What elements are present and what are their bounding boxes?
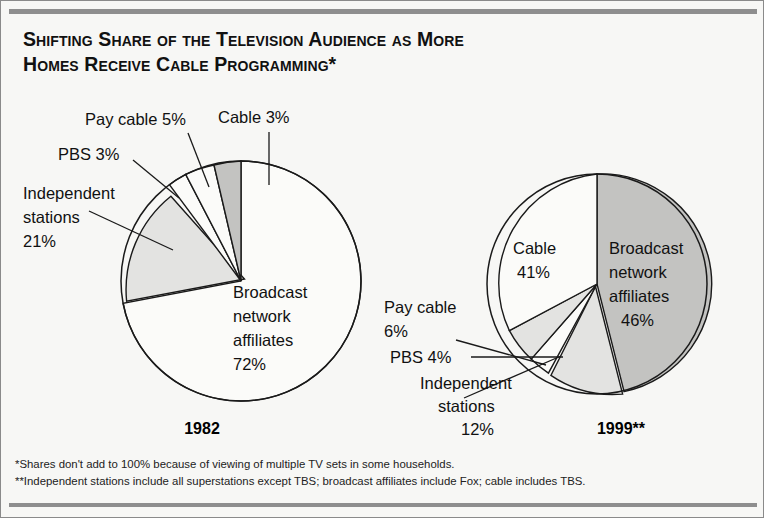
label-1982-independent-line3: 21% [23, 232, 56, 250]
label-1999-independent-line1: Independent [420, 374, 512, 392]
label-1999-pbs: PBS 4% [390, 348, 452, 366]
leader-1982-pbs [133, 160, 179, 198]
label-1982-independent-line1: Independent [23, 184, 115, 202]
label-1982-independent-line2: stations [23, 208, 80, 226]
year-label-1982: 1982 [184, 420, 220, 437]
footnotes: *Shares don't add to 100% because of vie… [15, 456, 755, 489]
label-1982-broadcast-line1: Broadcast [233, 283, 308, 301]
footnote-2: **Independent stations include all super… [15, 473, 755, 490]
label-1999-cable-line2: 41% [517, 263, 550, 281]
label-1999-broadcast-line3: affiliates [609, 287, 669, 305]
label-1999-independent-line2: stations [438, 397, 495, 415]
year-label-1999: 1999** [597, 420, 646, 437]
chart-frame: Shifting Share of the Television Audienc… [0, 0, 764, 518]
label-1982-broadcast-line4: 72% [233, 355, 266, 373]
label-1999-broadcast-line1: Broadcast [609, 239, 684, 257]
label-1999-paycable-line2: 6% [384, 322, 408, 340]
label-1999-independent-line3: 12% [461, 420, 494, 438]
label-1982-pbs: PBS 3% [58, 145, 120, 163]
pie-charts-svg: Cable 3% Pay cable 5% PBS 3% Independent… [1, 1, 764, 518]
label-1999-paycable-line1: Pay cable [384, 298, 456, 316]
label-1999-broadcast-line2: network [609, 263, 668, 281]
label-1982-cable: Cable 3% [218, 108, 290, 126]
footnote-1: *Shares don't add to 100% because of vie… [15, 456, 755, 473]
bottom-rule [9, 503, 757, 507]
label-1999-cable-line1: Cable [513, 239, 556, 257]
label-1982-broadcast-line2: network [233, 307, 292, 325]
label-1999-broadcast-line4: 46% [621, 311, 654, 329]
label-1982-broadcast-line3: affiliates [233, 331, 293, 349]
pie-1999 [487, 174, 712, 395]
label-1982-paycable: Pay cable 5% [85, 110, 186, 128]
